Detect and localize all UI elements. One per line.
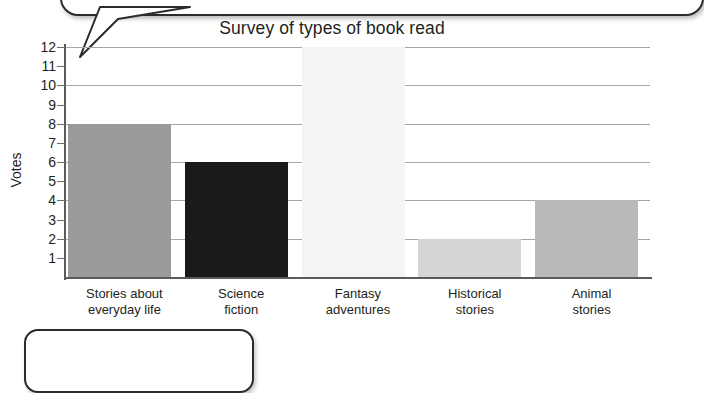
bar <box>185 162 288 277</box>
y-axis-tick-label: 8 <box>16 117 56 131</box>
y-axis-tick <box>57 239 66 240</box>
x-axis-category-label: Sciencefiction <box>183 286 300 318</box>
category-label-line: Animal <box>533 286 650 302</box>
y-axis-tick <box>57 105 66 106</box>
category-label-line: fiction <box>183 302 300 318</box>
y-axis-tick <box>57 85 66 86</box>
bar <box>418 239 521 277</box>
x-axis-line <box>64 277 652 279</box>
y-axis-tick-label: 1 <box>16 251 56 265</box>
y-axis-label: Votes <box>8 130 24 210</box>
rounded-callout-box <box>24 329 254 393</box>
y-axis-tick <box>57 200 66 201</box>
y-axis-tick <box>57 162 66 163</box>
y-axis-tick <box>57 143 66 144</box>
y-axis-tick <box>57 181 66 182</box>
plot-area <box>66 47 650 277</box>
category-label-line: Stories about <box>66 286 183 302</box>
y-axis-tick <box>57 220 66 221</box>
y-axis-tick-label: 11 <box>16 59 56 73</box>
category-label-line: adventures <box>300 302 417 318</box>
x-axis-category-label: Historicalstories <box>416 286 533 318</box>
x-axis-category-labels: Stories abouteveryday lifeSciencefiction… <box>66 286 650 330</box>
category-label-line: Historical <box>416 286 533 302</box>
y-axis-tick-label: 2 <box>16 232 56 246</box>
y-axis-tick-label: 3 <box>16 213 56 227</box>
bar <box>535 200 638 277</box>
y-axis-tick-label: 12 <box>16 40 56 54</box>
y-axis-tick-label: 10 <box>16 78 56 92</box>
category-label-line: Fantasy <box>300 286 417 302</box>
y-axis-tick <box>57 47 66 48</box>
category-label-line: everyday life <box>66 302 183 318</box>
y-axis-tick <box>57 66 66 67</box>
y-axis-tick <box>57 124 66 125</box>
bar <box>68 124 171 277</box>
x-axis-category-label: Stories abouteveryday life <box>66 286 183 318</box>
y-axis-tick-label: 9 <box>16 98 56 112</box>
y-axis-tick <box>57 258 66 259</box>
category-label-line: stories <box>416 302 533 318</box>
category-label-line: stories <box>533 302 650 318</box>
category-label-line: Science <box>183 286 300 302</box>
bar <box>302 47 405 277</box>
x-axis-category-label: Animalstories <box>533 286 650 318</box>
x-axis-category-label: Fantasyadventures <box>300 286 417 318</box>
